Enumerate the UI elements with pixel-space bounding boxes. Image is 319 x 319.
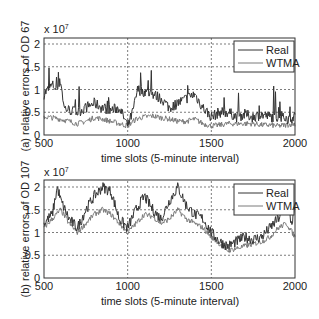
x-axis-label-b: time slots (5-minute interval) [101,295,239,307]
legend-real-a: Real [266,44,289,56]
panel-a: 00.511.52500100015002000 x 107 (a) relat… [19,21,307,164]
x-tick-label: 1500 [199,137,223,149]
legend-wtma-a: WTMA [266,57,300,69]
x-tick-label: 2000 [283,137,307,149]
legend-b: Real WTMA [234,184,300,215]
y-axis-label-b: (b) relative errors of OD 107 [19,161,31,298]
y-tick-label: 2 [34,181,40,193]
panel-b: 00.511.52500100015002000 x 107 (b) relat… [19,161,307,307]
legend-a: Real WTMA [234,41,300,72]
x-tick-label: 500 [35,137,53,149]
x-tick-label: 2000 [283,280,307,292]
y-tick-label: 1 [34,84,40,96]
y-tick-label: 1 [34,227,40,239]
x-tick-label: 1500 [199,280,223,292]
multiplier-a: x 107 [44,23,69,35]
y-tick-label: 2 [34,38,40,50]
series-wtma-a [44,114,295,129]
x-tick-label: 1000 [115,280,139,292]
legend-wtma-b: WTMA [266,200,300,212]
chart-figure: 00.511.52500100015002000 x 107 (a) relat… [0,0,319,319]
y-axis-label-a: (a) relative errors of OD 67 [19,21,31,152]
x-tick-label: 1000 [115,137,139,149]
multiplier-b: x 107 [44,166,69,178]
legend-real-b: Real [266,187,289,199]
x-tick-label: 500 [35,280,53,292]
x-axis-label-a: time slots (5-minute interval) [101,152,239,164]
